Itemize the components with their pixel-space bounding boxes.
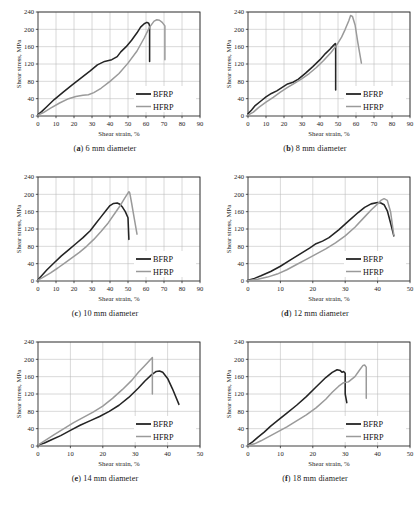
y-tick-label: 200 (234, 356, 245, 363)
x-tick-label: 70 (161, 285, 168, 292)
x-tick-label: 20 (71, 120, 78, 127)
plot-area-f: 0102030405004080120160200240Shear strain… (210, 330, 420, 476)
y-tick-label: 80 (237, 243, 244, 250)
legend-label-bfrp: BFRP (153, 90, 173, 99)
y-tick-label: 240 (234, 338, 245, 345)
chart-legend: BFRPHFRP (134, 416, 196, 442)
y-tick-label: 0 (31, 442, 35, 449)
series-bfrp (248, 44, 336, 114)
x-tick-label: 10 (67, 450, 74, 457)
cut-off-footnote (0, 499, 420, 507)
y-tick-label: 120 (234, 225, 245, 232)
x-tick-label: 20 (71, 285, 78, 292)
y-tick-label: 80 (237, 78, 244, 85)
panel-grid: 010203040506070809004080120160200240Shea… (0, 0, 420, 495)
x-axis-title: Shear strain, % (308, 460, 350, 467)
y-tick-label: 80 (27, 408, 34, 415)
x-tick-label: 0 (246, 120, 250, 127)
series-bfrp (38, 203, 129, 280)
x-tick-label: 80 (389, 120, 396, 127)
y-tick-label: 120 (24, 60, 35, 67)
y-tick-label: 120 (234, 60, 245, 67)
chart-panel-e: 0102030405004080120160200240Shear strain… (0, 330, 210, 495)
y-axis-title: Shear stress, MPa (15, 370, 22, 419)
chart-legend: BFRPHFRP (344, 416, 406, 442)
y-axis-title: Shear stress, MPa (225, 370, 232, 419)
x-axis-title: Shear strain, % (98, 460, 140, 467)
x-tick-label: 30 (342, 285, 349, 292)
x-tick-label: 0 (36, 120, 40, 127)
x-tick-label: 50 (335, 120, 342, 127)
y-tick-label: 0 (241, 442, 245, 449)
x-tick-label: 40 (317, 120, 324, 127)
plot-area-d: 0102030405004080120160200240Shear strain… (210, 165, 420, 311)
x-tick-label: 50 (407, 285, 414, 292)
figure-sheet: 010203040506070809004080120160200240Shea… (0, 0, 420, 507)
x-tick-label: 10 (53, 285, 60, 292)
chart-panel-d: 0102030405004080120160200240Shear strain… (210, 165, 420, 330)
legend-label-hfrp: HFRP (363, 103, 384, 112)
chart-svg-b: 010203040506070809004080120160200240Shea… (210, 0, 420, 146)
x-tick-label: 40 (374, 285, 381, 292)
y-tick-label: 80 (27, 78, 34, 85)
y-tick-label: 160 (234, 43, 245, 50)
x-tick-label: 10 (53, 120, 60, 127)
y-tick-label: 40 (27, 260, 34, 267)
x-tick-label: 90 (407, 120, 414, 127)
y-tick-label: 200 (24, 356, 35, 363)
x-tick-label: 50 (125, 285, 132, 292)
y-tick-label: 40 (237, 425, 244, 432)
x-tick-label: 20 (100, 450, 107, 457)
x-tick-label: 20 (310, 450, 317, 457)
x-tick-label: 10 (277, 285, 284, 292)
x-tick-label: 70 (161, 120, 168, 127)
x-tick-label: 40 (107, 285, 114, 292)
plot-area-c: 010203040506070809004080120160200240Shea… (0, 165, 210, 311)
y-tick-label: 80 (27, 243, 34, 250)
y-tick-label: 40 (27, 95, 34, 102)
chart-legend: BFRPHFRP (344, 251, 406, 277)
y-tick-label: 0 (31, 277, 35, 284)
x-tick-label: 20 (281, 120, 288, 127)
y-tick-label: 200 (24, 26, 35, 33)
x-tick-label: 30 (299, 120, 306, 127)
x-axis-title: Shear strain, % (98, 295, 140, 302)
series-bfrp (38, 22, 150, 114)
y-tick-label: 120 (234, 390, 245, 397)
legend-label-bfrp: BFRP (363, 255, 383, 264)
y-tick-label: 40 (237, 260, 244, 267)
x-tick-label: 40 (374, 450, 381, 457)
chart-panel-f: 0102030405004080120160200240Shear strain… (210, 330, 420, 495)
x-tick-label: 50 (197, 450, 204, 457)
x-axis-title: Shear strain, % (98, 130, 140, 137)
legend-label-hfrp: HFRP (363, 268, 384, 277)
x-tick-label: 30 (342, 450, 349, 457)
x-tick-label: 30 (89, 120, 96, 127)
legend-label-bfrp: BFRP (363, 90, 383, 99)
x-tick-label: 30 (89, 285, 96, 292)
x-axis-title: Shear strain, % (308, 130, 350, 137)
chart-svg-a: 010203040506070809004080120160200240Shea… (0, 0, 210, 146)
x-tick-label: 10 (277, 450, 284, 457)
series-bfrp (248, 370, 347, 445)
x-tick-label: 40 (107, 120, 114, 127)
y-tick-label: 160 (234, 373, 245, 380)
chart-legend: BFRPHFRP (134, 86, 196, 112)
y-tick-label: 160 (24, 373, 35, 380)
plot-area-e: 0102030405004080120160200240Shear strain… (0, 330, 210, 476)
y-tick-label: 0 (241, 277, 245, 284)
chart-panel-c: 010203040506070809004080120160200240Shea… (0, 165, 210, 330)
y-tick-label: 0 (241, 112, 245, 119)
series-hfrp (38, 192, 137, 280)
x-tick-label: 0 (246, 285, 250, 292)
y-tick-label: 80 (237, 408, 244, 415)
legend-label-bfrp: BFRP (153, 255, 173, 264)
y-axis-title: Shear stress, MPa (225, 40, 232, 89)
x-tick-label: 90 (197, 285, 204, 292)
x-tick-label: 40 (164, 450, 171, 457)
chart-legend: BFRPHFRP (344, 86, 406, 112)
x-tick-label: 60 (353, 120, 360, 127)
y-tick-label: 200 (24, 191, 35, 198)
y-tick-label: 240 (234, 8, 245, 15)
y-axis-title: Shear stress, MPa (225, 205, 232, 254)
